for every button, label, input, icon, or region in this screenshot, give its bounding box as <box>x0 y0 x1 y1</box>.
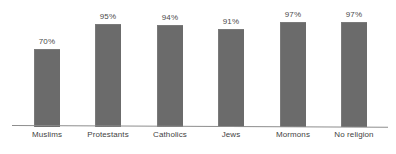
bar-rect <box>157 25 183 127</box>
category-axis-labels: Muslims Protestants Catholics Jews Mormo… <box>0 129 396 154</box>
category-label-no-religion: No religion <box>309 129 396 141</box>
bar-chart: 70% 95% 94% 91% 97% 97% Muslims Protesta… <box>0 0 396 154</box>
bar-value-label: 91% <box>223 17 240 26</box>
bar-group: 70% <box>34 49 60 127</box>
bar-group: 97% <box>341 22 367 127</box>
bar-rect <box>341 22 367 127</box>
bar-group: 95% <box>95 24 121 127</box>
bar-value-label: 97% <box>346 10 363 19</box>
bar-rect <box>34 49 60 127</box>
bar-value-label: 97% <box>285 10 302 19</box>
bar-value-label: 94% <box>162 13 179 22</box>
bar-group: 97% <box>280 22 306 127</box>
bar-group: 91% <box>218 29 244 127</box>
bar-value-label: 70% <box>39 37 56 46</box>
bar-rect <box>280 22 306 127</box>
plot-area: 70% 95% 94% 91% 97% 97% <box>0 0 396 127</box>
bar-value-label: 95% <box>100 12 117 21</box>
bar-group: 94% <box>157 25 183 127</box>
bar-rect <box>95 24 121 127</box>
bar-rect <box>218 29 244 127</box>
